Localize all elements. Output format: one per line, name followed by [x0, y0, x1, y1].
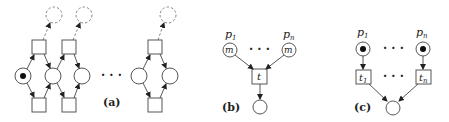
output-place [386, 101, 400, 115]
panel-c-dots-mid: · · · [383, 69, 404, 83]
transition [148, 40, 162, 54]
place [45, 68, 61, 84]
transition [32, 40, 46, 54]
pn-label: pn [416, 26, 428, 40]
transition [148, 98, 162, 112]
panel-a-dots: · · · [101, 68, 122, 82]
p1-label: p1 [357, 26, 369, 40]
pn-marking: m [284, 45, 293, 55]
transition [32, 98, 46, 112]
place [131, 68, 147, 84]
token [360, 46, 366, 52]
transition [62, 40, 76, 54]
p1-marking: m [225, 45, 234, 55]
dashed-place [76, 7, 92, 23]
dashed-place [160, 7, 176, 23]
panel-c-dots-top: · · · [383, 41, 404, 55]
dashed-place [46, 7, 62, 23]
transition [62, 98, 76, 112]
petri-net-figure: · · · (a) p1 pn m m t · · · (b) p1 pn t1… [0, 0, 449, 122]
panel-a-caption: (a) [103, 96, 121, 109]
panel-a [15, 7, 178, 112]
place [74, 68, 90, 84]
output-place [253, 100, 267, 114]
token [20, 73, 26, 79]
pn-label: pn [283, 28, 295, 42]
place [162, 68, 178, 84]
panel-b-dots: · · · [249, 42, 270, 56]
panel-b-caption: (b) [222, 101, 240, 114]
token [420, 46, 426, 52]
panel-c-caption: (c) [354, 101, 371, 114]
p1-label: p1 [225, 28, 237, 42]
